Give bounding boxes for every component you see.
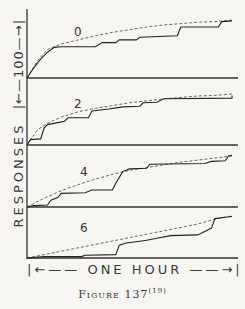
cumulative-record <box>27 155 232 207</box>
cumulative-record <box>27 21 232 78</box>
x-axis-label: |←—— ONE HOUR ——→| <box>27 262 239 277</box>
y-axis-label: RESPONSES |←—100—→| <box>11 88 26 228</box>
panel-4: 4 <box>27 155 238 207</box>
panel-label: 6 <box>80 221 88 235</box>
caption-reference: (19) <box>148 287 166 295</box>
panel-2: 2 <box>27 94 238 145</box>
caption-text: Figure 137 <box>78 288 148 301</box>
y-axis-title: RESPONSES <box>11 122 26 227</box>
panels: 0246 <box>27 20 238 258</box>
y-axis-scale: |←—100—→| <box>11 19 26 109</box>
smoothed-curve <box>27 216 232 258</box>
panel-0: 0 <box>27 20 238 78</box>
smoothed-curve <box>27 94 232 145</box>
panel-6: 6 <box>27 216 238 258</box>
panel-label: 4 <box>80 165 88 179</box>
smoothed-curve <box>27 20 232 78</box>
figure-caption: Figure 137(19) <box>0 287 245 301</box>
panel-label: 2 <box>74 97 82 111</box>
panel-label: 0 <box>74 25 82 39</box>
